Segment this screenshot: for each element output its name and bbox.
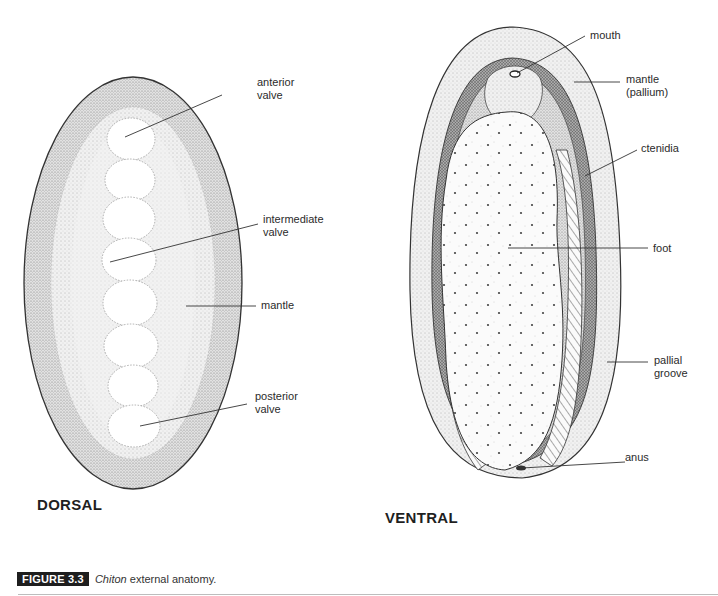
ventral-view: [410, 27, 648, 478]
anterior-valve: [107, 118, 155, 160]
label-intermediate-valve: intermediate valve: [263, 213, 324, 239]
ventral-title: VENTRAL: [385, 509, 458, 526]
dorsal-title: DORSAL: [37, 496, 102, 513]
label-anus: anus: [625, 451, 649, 464]
posterior-valve: [108, 405, 160, 447]
caption-description: external anatomy.: [127, 573, 217, 585]
label-pallial-groove: pallial groove: [654, 354, 688, 380]
label-posterior-valve: posterior valve: [255, 390, 298, 416]
figure-caption: FIGURE 3.3 Chiton external anatomy.: [17, 572, 216, 586]
dorsal-view: [24, 77, 258, 489]
foot: [441, 112, 563, 470]
chiton-illustration: [0, 0, 718, 596]
bottom-rule: [18, 594, 718, 595]
caption-text: Chiton external anatomy.: [95, 573, 216, 585]
label-mouth: mouth: [590, 29, 621, 42]
label-mantle: mantle: [261, 299, 294, 312]
label-foot: foot: [653, 242, 671, 255]
caption-genus: Chiton: [95, 573, 127, 585]
figure-number-badge: FIGURE 3.3: [17, 572, 89, 586]
label-mantle-pallium: mantle (pallium): [626, 73, 668, 99]
label-ctenidia: ctenidia: [641, 142, 679, 155]
label-anterior-valve: anterior valve: [257, 76, 294, 102]
